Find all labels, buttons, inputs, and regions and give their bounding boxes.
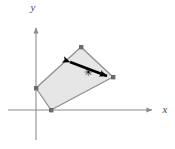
vertex-marker-top <box>79 45 83 49</box>
x-axis-label: x <box>162 103 168 115</box>
center-asterisk-mark: ✳ <box>83 66 92 79</box>
quadrilateral-group <box>34 45 115 112</box>
vertex-marker-left <box>34 86 38 90</box>
vertex-marker-bottom <box>49 108 53 112</box>
y-axis-label: y <box>30 1 36 13</box>
figure-container: x y ✳ <box>0 0 175 149</box>
quadrilateral-shape <box>36 47 113 110</box>
vertex-marker-right <box>111 75 115 79</box>
coordinate-diagram: x y ✳ <box>0 0 175 149</box>
